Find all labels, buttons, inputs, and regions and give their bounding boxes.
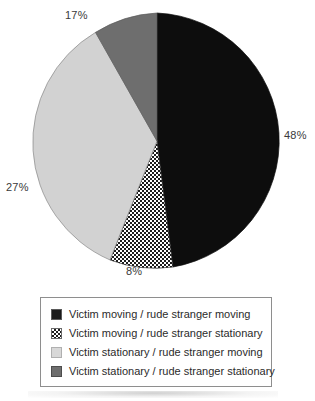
legend-item-victim-stationary-stranger-moving[interactable]: Victim stationary / rude stranger moving (51, 343, 271, 362)
legend-item-victim-stationary-stranger-stationary[interactable]: Victim stationary / rude stranger statio… (51, 362, 271, 381)
pie-label-27-percent: 27% (6, 182, 29, 193)
legend-item-victim-moving-stranger-stationary[interactable]: Victim moving / rude stranger stationary (51, 324, 271, 343)
scan-artifact-smudge (28, 391, 278, 398)
legend-label: Victim moving / rude stranger moving (69, 309, 250, 320)
pie-label-8-percent: 8% (126, 266, 142, 277)
legend-swatch-light-gray (51, 347, 62, 358)
pie-label-48-percent: 48% (284, 130, 307, 141)
legend-label: Victim stationary / rude stranger moving (69, 347, 263, 358)
pie-chart-figure: 48% 8% 27% 17% Victim moving / rude stra… (0, 0, 315, 401)
legend-swatch-mid-gray (51, 366, 62, 377)
legend-label: Victim moving / rude stranger stationary (69, 328, 263, 339)
chart-legend: Victim moving / rude stranger moving Vic… (40, 297, 272, 387)
legend-swatch-black (51, 309, 62, 320)
pie-label-17-percent: 17% (65, 10, 88, 21)
pie-chart-plot-area: 48% 8% 27% 17% (0, 0, 315, 290)
pie-slice-victim-moving-stranger-moving[interactable] (157, 13, 279, 267)
legend-swatch-dotted (51, 328, 62, 339)
legend-item-victim-moving-stranger-moving[interactable]: Victim moving / rude stranger moving (51, 305, 271, 324)
legend-label: Victim stationary / rude stranger statio… (69, 366, 275, 377)
pie-chart-svg (0, 0, 315, 290)
